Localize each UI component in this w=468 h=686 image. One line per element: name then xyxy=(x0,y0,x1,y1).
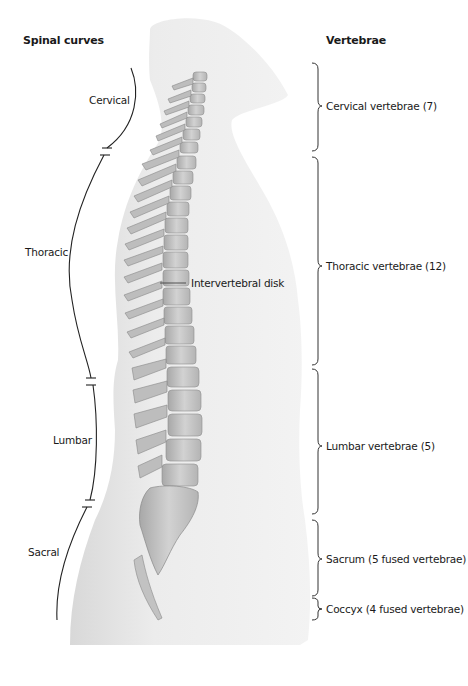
vertebrae-braces xyxy=(312,63,322,620)
spinal-curves-heading: Spinal curves xyxy=(23,34,104,47)
vertebrae-label-sacrum: Sacrum (5 fused vertebrae) xyxy=(326,553,466,565)
vertebrae-heading: Vertebrae xyxy=(326,34,386,47)
curve-label-cervical: Cervical xyxy=(89,94,130,106)
curve-label-lumbar: Lumbar xyxy=(53,434,92,446)
curve-label-sacral: Sacral xyxy=(28,546,59,558)
vertebrae-label-thoracic: Thoracic vertebrae (12) xyxy=(326,260,446,272)
vertebrae-label-lumbar: Lumbar vertebrae (5) xyxy=(326,440,435,452)
curve-label-thoracic: Thoracic xyxy=(25,246,68,258)
vertebrae-label-coccyx: Coccyx (4 fused vertebrae) xyxy=(326,603,464,615)
vertebrae-label-cervical: Cervical vertebrae (7) xyxy=(326,100,437,112)
intervertebral-disk-label: Intervertebral disk xyxy=(191,277,284,289)
